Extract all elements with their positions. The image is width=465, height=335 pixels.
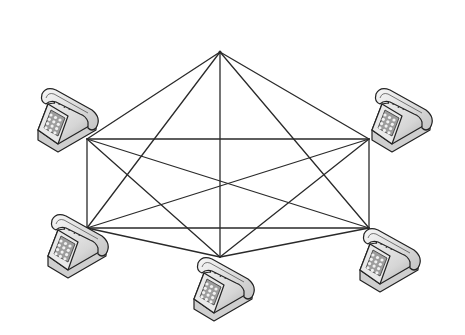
edge-right-bottom-center — [220, 139, 369, 257]
telephone-nodes — [38, 89, 432, 321]
edge-bottom-center-bottom-right — [220, 228, 369, 257]
edge-top-bottom-right — [220, 52, 369, 228]
connection-lines — [87, 52, 369, 257]
edge-top-bottom-left — [87, 52, 220, 228]
edge-left-bottom-center — [87, 139, 220, 257]
network-diagram: Full mesh telephone network — [0, 0, 465, 335]
telephone-icon — [38, 89, 98, 152]
telephone-icon — [194, 258, 254, 321]
mesh-diagram-canvas — [0, 0, 465, 335]
top-junction-point — [219, 51, 222, 54]
edge-top-right — [220, 52, 369, 139]
telephone-icon — [360, 229, 420, 292]
edge-top-left — [87, 52, 220, 139]
telephone-icon — [372, 89, 432, 152]
